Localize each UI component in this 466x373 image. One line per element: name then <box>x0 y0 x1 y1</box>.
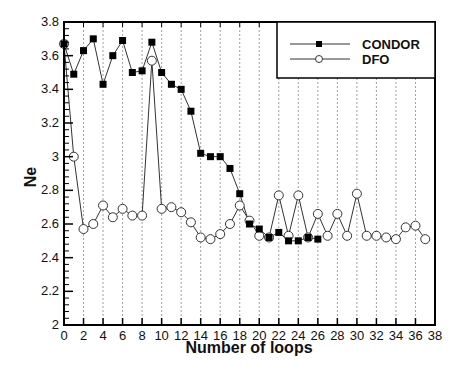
data-point-dfo <box>323 231 332 240</box>
data-point-condor <box>285 237 292 244</box>
x-tick-label: 38 <box>428 328 442 343</box>
data-point-condor <box>178 86 185 93</box>
data-point-condor <box>295 237 302 244</box>
data-point-dfo <box>255 231 264 240</box>
legend: CONDOR DFO <box>277 22 435 78</box>
legend-label-condor: CONDOR <box>362 37 420 52</box>
data-point-dfo <box>206 235 215 244</box>
y-tick-label: 3 <box>52 149 59 164</box>
data-point-dfo <box>186 218 195 227</box>
x-tick-label: 36 <box>408 328 422 343</box>
x-tick-label: 26 <box>311 328 325 343</box>
x-tick-label: 30 <box>350 328 364 343</box>
x-tick-label: 32 <box>369 328 383 343</box>
data-point-dfo <box>421 235 430 244</box>
data-point-condor <box>226 165 233 172</box>
data-point-dfo <box>333 209 342 218</box>
data-point-dfo <box>157 204 166 213</box>
data-point-condor <box>100 81 107 88</box>
y-axis-tick-labels: 22.22.42.62.833.23.43.63.8 <box>41 14 59 332</box>
x-tick-label: 10 <box>154 328 168 343</box>
data-point-dfo <box>167 203 176 212</box>
data-point-condor <box>168 81 175 88</box>
y-tick-label: 2.6 <box>41 216 59 231</box>
data-point-condor <box>119 37 126 44</box>
data-point-condor <box>187 108 194 115</box>
x-tick-label: 6 <box>119 328 126 343</box>
x-tick-label: 8 <box>138 328 145 343</box>
data-point-dfo <box>216 230 225 239</box>
data-point-dfo <box>128 211 137 220</box>
x-tick-label: 4 <box>99 328 106 343</box>
data-point-condor <box>275 229 282 236</box>
data-point-condor <box>148 39 155 46</box>
data-point-dfo <box>294 191 303 200</box>
data-point-condor <box>90 35 97 42</box>
y-tick-label: 2 <box>52 317 59 332</box>
legend-label-dfo: DFO <box>362 52 389 67</box>
x-tick-label: 34 <box>389 328 403 343</box>
x-tick-label: 28 <box>330 328 344 343</box>
y-tick-label: 2.8 <box>41 182 59 197</box>
data-point-dfo <box>89 220 98 229</box>
data-point-condor <box>256 226 263 233</box>
data-point-condor <box>305 234 312 241</box>
y-tick-label: 3.8 <box>41 14 59 29</box>
data-point-condor <box>80 47 87 54</box>
x-axis-title: Number of loops <box>185 339 312 356</box>
data-point-condor <box>217 153 224 160</box>
data-point-dfo <box>352 189 361 198</box>
data-point-dfo <box>313 209 322 218</box>
y-axis-title: Ne <box>22 167 39 188</box>
data-point-condor <box>70 71 77 78</box>
data-point-condor <box>246 221 253 228</box>
data-point-dfo <box>274 191 283 200</box>
y-tick-label: 3.2 <box>41 115 59 130</box>
y-tick-label: 3.6 <box>41 48 59 63</box>
data-point-dfo <box>411 221 420 230</box>
data-point-dfo <box>79 225 88 234</box>
y-tick-label: 2.2 <box>41 283 59 298</box>
data-point-dfo <box>225 220 234 229</box>
x-tick-label: 2 <box>80 328 87 343</box>
data-point-condor <box>129 69 136 76</box>
data-point-dfo <box>362 231 371 240</box>
line-chart: 02468101214161820222426283032343638 22.2… <box>0 0 466 373</box>
data-point-condor <box>197 150 204 157</box>
open-circle-marker-icon <box>316 56 323 63</box>
data-point-dfo <box>372 231 381 240</box>
y-tick-label: 2.4 <box>41 250 59 265</box>
data-point-condor <box>207 153 214 160</box>
data-point-dfo <box>99 201 108 210</box>
y-tick-label: 3.4 <box>41 81 59 96</box>
data-point-dfo <box>382 233 391 242</box>
data-point-condor <box>158 69 165 76</box>
data-point-dfo <box>196 233 205 242</box>
data-point-dfo <box>147 56 156 65</box>
data-point-condor <box>314 236 321 243</box>
data-point-condor <box>236 190 243 197</box>
data-point-dfo <box>138 211 147 220</box>
data-point-condor <box>109 52 116 59</box>
data-point-condor <box>266 234 273 241</box>
data-point-dfo <box>343 231 352 240</box>
filled-square-marker-icon <box>316 41 322 47</box>
x-tick-label: 0 <box>60 328 67 343</box>
data-point-dfo <box>401 223 410 232</box>
data-point-dfo <box>391 235 400 244</box>
data-point-dfo <box>108 213 117 222</box>
data-point-dfo <box>177 208 186 217</box>
data-point-condor <box>139 67 146 74</box>
data-point-dfo <box>235 201 244 210</box>
data-point-dfo <box>118 204 127 213</box>
